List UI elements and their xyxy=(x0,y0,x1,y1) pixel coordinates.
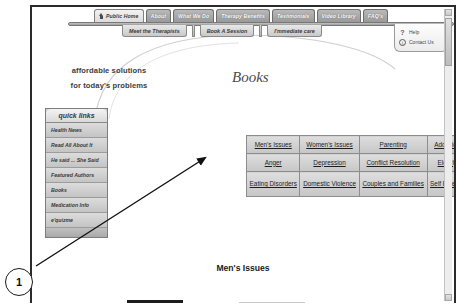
quick-links-footer xyxy=(46,228,107,237)
category-link[interactable]: Self Esteem xyxy=(430,180,456,188)
sidebar-item-health-news[interactable]: Health News xyxy=(46,123,107,138)
home-icon xyxy=(99,13,104,19)
tagline: affordable solutions for today's problem… xyxy=(48,63,170,93)
help-contact-box[interactable]: ? Help i Contact Us xyxy=(394,24,448,52)
category-link[interactable]: Eating Disorders xyxy=(249,180,297,188)
subnav-label: Meet the Therapists xyxy=(129,28,180,34)
nav-tab-label: Therapy Benefits xyxy=(221,13,265,19)
quick-links-header: quick links xyxy=(46,109,107,123)
category-link[interactable]: Depression xyxy=(302,159,356,167)
category-cell-womens-issues[interactable]: Women's Issues xyxy=(300,136,359,154)
subnav-book-a-session[interactable]: Book A Session xyxy=(200,25,255,37)
tagline-line-1: affordable solutions xyxy=(48,63,170,78)
scroll-up-arrow-icon[interactable] xyxy=(445,9,452,16)
category-link[interactable]: Parenting xyxy=(362,141,425,149)
category-link[interactable]: Couples and Families xyxy=(362,180,425,188)
contact-us-label: Contact Us xyxy=(409,39,434,45)
sidebar-item-equizme[interactable]: e'quizme xyxy=(46,213,107,228)
sidebar-item-label: Read All About It xyxy=(51,142,92,148)
subnav-immediate-care[interactable]: I'mmediate care xyxy=(267,25,322,37)
tagline-line-2: for today's problems xyxy=(48,78,170,93)
category-cell-couples-and-families[interactable]: Couples and Families xyxy=(359,172,427,197)
sidebar-item-medication-info[interactable]: Medication Info xyxy=(46,198,107,213)
category-cell-depression[interactable]: Depression xyxy=(300,154,359,172)
category-link[interactable]: Domestic Violence xyxy=(302,180,356,188)
nav-tab-label: What We Do xyxy=(178,13,209,19)
category-link[interactable]: Addiction xyxy=(430,141,456,149)
nav-tab-label: FAQ's xyxy=(368,13,383,19)
nav-tab-label: Public Home xyxy=(106,13,139,19)
category-link[interactable]: Elderly xyxy=(430,159,456,167)
scroll-down-arrow-icon[interactable] xyxy=(445,294,452,301)
category-cell-conflict-resolution[interactable]: Conflict Resolution xyxy=(359,154,427,172)
category-cell-domestic-violence[interactable]: Domestic Violence xyxy=(300,172,359,197)
contact-us-link[interactable]: i Contact Us xyxy=(399,37,443,47)
category-cell-anger[interactable]: Anger xyxy=(247,154,300,172)
sidebar-item-he-said-she-said[interactable]: He said ... She Said xyxy=(46,153,107,168)
book-thumbnail[interactable] xyxy=(127,300,183,303)
page-title: Books xyxy=(232,69,269,86)
sidebar-item-label: Health News xyxy=(51,127,82,133)
nav-tab-faqs[interactable]: FAQ's xyxy=(363,9,388,22)
nav-tab-label: Testimonials xyxy=(277,13,310,19)
annotation-marker-label: 1 xyxy=(16,276,22,288)
sidebar-item-label: Featured Authors xyxy=(51,172,94,178)
sidebar-item-label: Books xyxy=(51,187,67,193)
subnav-meet-the-therapists[interactable]: Meet the Therapists xyxy=(122,25,187,37)
category-link[interactable]: Conflict Resolution xyxy=(362,159,425,167)
nav-tab-label: Video Library xyxy=(322,13,356,19)
browser-page-frame: Public Home About What We Do Therapy Ben… xyxy=(30,5,456,303)
table-row: Eating Disorders Domestic Violence Coupl… xyxy=(247,172,457,197)
help-link[interactable]: ? Help xyxy=(399,27,443,37)
nav-tab-public-home[interactable]: Public Home xyxy=(94,9,144,22)
nav-tab-what-we-do[interactable]: What We Do xyxy=(173,9,214,22)
sidebar-item-books[interactable]: Books xyxy=(46,183,107,198)
scrollbar-thumb[interactable] xyxy=(445,18,452,66)
book-thumbnail-title[interactable]: DEVOUR xyxy=(193,301,229,303)
category-link[interactable]: Anger xyxy=(249,159,297,167)
vertical-scrollbar[interactable] xyxy=(444,9,452,301)
nav-tab-video-library[interactable]: Video Library xyxy=(317,9,361,22)
subnav-separator xyxy=(192,25,195,37)
table-row: Men's Issues Women's Issues Parenting Ad… xyxy=(247,136,457,154)
sidebar-item-label: Medication Info xyxy=(51,202,89,208)
category-cell-eating-disorders[interactable]: Eating Disorders xyxy=(247,172,300,197)
secondary-navigation[interactable]: Meet the Therapists Book A Session I'mme… xyxy=(122,25,322,37)
category-cell-mens-issues[interactable]: Men's Issues xyxy=(247,136,300,154)
subnav-label: I'mmediate care xyxy=(274,28,315,34)
subnav-label: Book A Session xyxy=(207,28,248,34)
nav-tab-testimonials[interactable]: Testimonials xyxy=(272,9,315,22)
category-link[interactable]: Women's Issues xyxy=(302,141,356,149)
book-thumbnail[interactable] xyxy=(239,302,305,303)
category-link[interactable]: Men's Issues xyxy=(249,141,297,149)
primary-navigation[interactable]: Public Home About What We Do Therapy Ben… xyxy=(94,9,388,22)
sidebar-item-read-all-about-it[interactable]: Read All About It xyxy=(46,138,107,153)
question-mark-icon: ? xyxy=(399,29,406,36)
nav-tab-label: About xyxy=(151,13,166,19)
subnav-separator xyxy=(259,25,262,37)
nav-tab-about[interactable]: About xyxy=(146,9,171,22)
category-cell-parenting[interactable]: Parenting xyxy=(359,136,427,154)
sidebar-item-label: e'quizme xyxy=(51,217,73,223)
section-heading: Men's Issues xyxy=(32,263,454,273)
book-category-grid: Men's Issues Women's Issues Parenting Ad… xyxy=(246,135,456,197)
sidebar-item-featured-authors[interactable]: Featured Authors xyxy=(46,168,107,183)
sidebar-item-label: He said ... She Said xyxy=(51,157,99,163)
book-thumbnail-strip: DEVOUR xyxy=(127,297,377,303)
quick-links-sidebar: quick links Health News Read All About I… xyxy=(45,108,108,238)
nav-tab-therapy-benefits[interactable]: Therapy Benefits xyxy=(216,9,270,22)
annotation-marker-1: 1 xyxy=(5,268,33,296)
table-row: Anger Depression Conflict Resolution Eld… xyxy=(247,154,457,172)
info-circle-icon: i xyxy=(399,39,406,46)
help-label: Help xyxy=(409,29,419,35)
